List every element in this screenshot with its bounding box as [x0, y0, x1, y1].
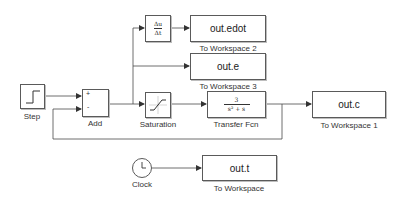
c-variable: out.c — [338, 99, 360, 110]
to-workspace-2-block[interactable]: out.edot — [190, 15, 266, 42]
clock-label: Clock — [132, 180, 152, 189]
to-workspace-2-label: To Workspace 2 — [199, 44, 256, 53]
tf-numerator: 3 — [235, 97, 239, 103]
step-block[interactable] — [20, 84, 45, 109]
to-workspace-1-label: To Workspace 1 — [320, 121, 377, 130]
saturation-block[interactable] — [145, 92, 171, 118]
e-variable: out.e — [217, 61, 239, 72]
tf-denominator: s² + s — [228, 106, 245, 112]
simulink-canvas[interactable]: Step + - Add Δu Δt out.edot To Workspace… — [0, 0, 405, 202]
step-label: Step — [24, 112, 40, 121]
clock-block[interactable] — [131, 157, 153, 179]
saturation-icon — [148, 95, 168, 115]
t-variable: out.t — [230, 163, 249, 174]
to-workspace-1-block[interactable]: out.c — [312, 91, 386, 118]
derivative-icon: Δu Δt — [154, 21, 162, 36]
derivative-numerator: Δu — [154, 21, 162, 27]
edot-variable: out.edot — [210, 23, 246, 34]
derivative-block[interactable]: Δu Δt — [145, 15, 171, 42]
step-icon — [24, 88, 42, 106]
derivative-denominator: Δt — [155, 30, 162, 36]
to-workspace-label: To Workspace — [214, 184, 265, 193]
transfer-fcn-expression: 3 s² + s — [224, 97, 250, 112]
saturation-label: Saturation — [140, 120, 176, 129]
to-workspace-3-label: To Workspace 3 — [199, 82, 256, 91]
add-label: Add — [88, 119, 102, 128]
transfer-fcn-label: Transfer Fcn — [213, 120, 258, 129]
transfer-fcn-block[interactable]: 3 s² + s — [207, 91, 266, 118]
to-workspace-3-block[interactable]: out.e — [190, 53, 266, 80]
add-minus-port: - — [87, 103, 89, 110]
to-workspace-block[interactable]: out.t — [202, 155, 277, 181]
add-plus-port: + — [86, 90, 90, 97]
